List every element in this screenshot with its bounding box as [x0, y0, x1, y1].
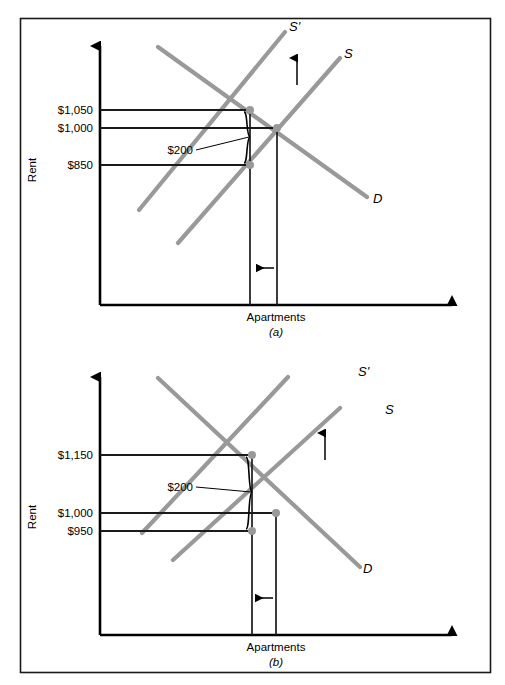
- panel-a-panel-label: (a): [269, 326, 283, 338]
- panel-a-tick-label-1050: $1,050: [58, 104, 93, 116]
- panel-a-demand-curve: [158, 47, 367, 197]
- panel-a-controlled-rent-point: [246, 161, 254, 169]
- panel-b: $1,150 $1,000 $950 $200 S' S D Apartment…: [26, 364, 452, 668]
- panel-b-label-s-prime: S': [358, 364, 370, 379]
- panel-a-tick-label-850: $850: [67, 159, 93, 171]
- panel-a-label-d: D: [373, 191, 382, 206]
- panel-b-equilibrium-old-point: [272, 509, 280, 517]
- panel-a-callout-leader: [196, 137, 249, 150]
- panel-b-y-axis-title: Rent: [26, 504, 38, 529]
- panel-b-tick-label-950: $950: [67, 525, 93, 537]
- panel-a-tick-label-1000: $1,000: [58, 122, 93, 134]
- panel-b-tick-label-1000: $1,000: [58, 507, 93, 519]
- panel-b-callout-leader: [196, 487, 251, 492]
- panel-b-label-s: S: [385, 402, 394, 417]
- panel-b-panel-label: (b): [269, 656, 283, 668]
- panel-b-label-d: D: [363, 561, 372, 576]
- panel-a-label-s-prime: S': [289, 19, 301, 34]
- panel-b-equilibrium-new-point: [248, 451, 256, 459]
- panel-b-controlled-rent-point: [248, 527, 256, 535]
- panel-b-price-gap-label: $200: [167, 481, 193, 493]
- panel-a-equilibrium-new-point: [246, 106, 254, 114]
- panel-a-y-axis-title: Rent: [26, 157, 38, 182]
- panel-a-equilibrium-old-point: [273, 124, 281, 132]
- panel-b-x-axis-title: Apartments: [247, 641, 306, 653]
- supply-demand-figure: $1,050 $1,000 $850 $200 S' S D Apartment…: [0, 0, 505, 685]
- figure-root: $1,050 $1,000 $850 $200 S' S D Apartment…: [0, 0, 505, 685]
- panel-a-x-axis-title: Apartments: [247, 311, 306, 323]
- panel-a-price-gap-label: $200: [167, 144, 193, 156]
- panel-b-supply-curve: [173, 408, 340, 560]
- panel-a-label-s: S: [344, 46, 353, 61]
- panel-b-tick-label-1150: $1,150: [58, 449, 93, 461]
- panel-a: $1,050 $1,000 $850 $200 S' S D Apartment…: [26, 19, 452, 338]
- panel-a-supply-curve: [178, 58, 340, 243]
